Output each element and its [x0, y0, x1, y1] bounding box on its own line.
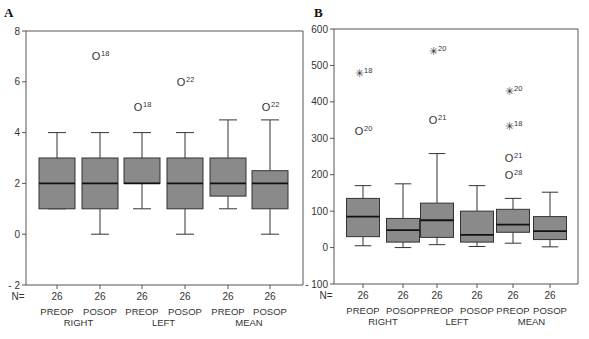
panel-b-category-label: PREOP: [496, 305, 529, 316]
panel-b-outlier-case-label: 21: [514, 151, 522, 160]
panel-a-ytick-label: 2: [14, 178, 20, 189]
panel-b-category-label: POSOP: [386, 305, 420, 316]
panel-b-outlier-marker: O: [355, 125, 364, 137]
panel-a-label: A: [4, 5, 14, 20]
panel-b-ytick-label: 0: [322, 242, 328, 253]
panel-b-outlier-case-label: 28: [514, 168, 522, 177]
panel-a-n-value: 26: [136, 291, 148, 302]
panel-b-ytick-label: 200: [311, 169, 328, 180]
panel-b-box: [497, 209, 530, 232]
panel-b-outlier-marker: O: [505, 169, 514, 181]
panel-b-outlier-case-label: 20: [364, 124, 372, 133]
panel-b-ytick-label: 600: [311, 24, 328, 35]
panel-b-category-label: PREOP: [420, 305, 453, 316]
panel-b-n-value: 26: [471, 290, 483, 301]
panel-b-n-label: N=: [319, 290, 332, 301]
panel-b-box: [347, 198, 380, 236]
panel-a-n-label: N=: [11, 291, 24, 302]
panel-a-outlier-marker: O: [177, 76, 186, 88]
panel-a-n-value: 26: [94, 291, 106, 302]
panel-b-outlier-case-label: 20: [514, 84, 522, 93]
panel-a-group-label: RIGHT: [64, 317, 94, 328]
panel-a-box: [124, 158, 160, 183]
panel-b-category-label: POSOP: [533, 305, 567, 316]
panel-b-outlier-marker: ✳: [505, 120, 514, 132]
panel-a-n-value: 26: [264, 291, 276, 302]
panel-b-outlier-marker: ✳: [505, 85, 514, 97]
panel-b-outlier-case-label: 18: [514, 119, 522, 128]
panel-b-group-label: MEAN: [518, 316, 546, 327]
panel-b-outlier-marker: O: [505, 152, 514, 164]
panel-a-outlier-marker: O: [92, 50, 101, 62]
panel-a-category-label: PREOP: [125, 306, 158, 317]
panel-b-group-label: RIGHT: [368, 316, 398, 327]
panel-b-box: [461, 211, 494, 242]
panel-a-n-value: 26: [51, 291, 63, 302]
panel-b-ytick-label: 300: [311, 133, 328, 144]
panel-b-group-label: LEFT: [445, 316, 468, 327]
panel-a-category-label: PREOP: [40, 306, 73, 317]
panel-a-ytick-label: - 2: [8, 280, 20, 291]
panel-a-box: [210, 158, 246, 196]
panel-b-category-label: POSOP: [460, 305, 494, 316]
panel-a-n-value: 26: [222, 291, 234, 302]
panel-b-n-value: 26: [507, 290, 519, 301]
panel-b-outlier-case-label: 21: [438, 113, 446, 122]
panel-a-category-label: POSOP: [83, 306, 117, 317]
panel-a-n-value: 26: [179, 291, 191, 302]
boxplot-figure: A- 202468N=26PREOPO1826POSOPO1826PREOPO2…: [0, 0, 589, 339]
panel-b-outlier-marker: O: [429, 114, 438, 126]
panel-a-category-label: POSOP: [253, 306, 287, 317]
panel-a-ytick-label: 4: [14, 127, 20, 138]
panel-a-category-label: POSOP: [168, 306, 202, 317]
panel-a-outlier-case-label: 22: [271, 100, 279, 109]
panel-a-outlier-case-label: 18: [101, 49, 109, 58]
panel-b-box: [534, 217, 567, 240]
panel-b-outlier-case-label: 20: [438, 44, 446, 53]
panel-b-outlier-marker: ✳: [429, 45, 438, 57]
panel-b-n-value: 26: [357, 290, 369, 301]
panel-a-ytick-label: 8: [14, 26, 20, 37]
panel-a-group-label: LEFT: [152, 317, 175, 328]
panel-a-ytick-label: 0: [14, 229, 20, 240]
panel-b-label: B: [314, 5, 323, 20]
panel-a-group-label: MEAN: [235, 317, 263, 328]
panel-b-n-value: 26: [544, 290, 556, 301]
panel-b-ytick-label: 500: [311, 60, 328, 71]
panel-a-box: [252, 171, 288, 209]
panel-a-outlier-marker: O: [262, 101, 271, 113]
panel-a-category-label: PREOP: [211, 306, 244, 317]
panel-a-outlier-marker: O: [134, 101, 143, 113]
panel-b-category-label: PREOP: [346, 305, 379, 316]
panel-a-outlier-case-label: 22: [186, 75, 194, 84]
panel-a-ytick-label: 6: [14, 76, 20, 87]
panel-a-outlier-case-label: 18: [143, 100, 151, 109]
panel-b-ytick-label: 400: [311, 96, 328, 107]
panel-b-outlier-case-label: 18: [364, 66, 372, 75]
panel-b-n-value: 26: [397, 290, 409, 301]
panel-b-ytick-label: - 100: [305, 279, 328, 290]
panel-b-ytick-label: 100: [311, 206, 328, 217]
panel-b-outlier-marker: ✳: [355, 67, 364, 79]
panel-b-n-value: 26: [431, 290, 443, 301]
